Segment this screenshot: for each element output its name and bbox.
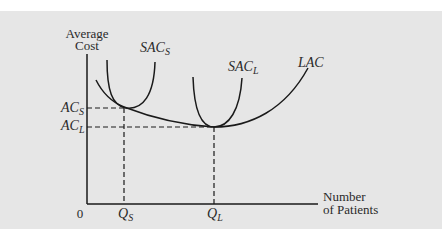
x-axis-label-2: of Patients (323, 202, 378, 217)
cost-curve-diagram: Average Cost Number of Patients 0 SACS S… (0, 0, 446, 241)
ac-l-label: ACL (60, 118, 85, 135)
origin-label: 0 (77, 206, 84, 221)
lac-curve (96, 68, 308, 127)
y-axis-label-2: Cost (75, 38, 99, 53)
ac-s-label: ACS (60, 100, 84, 117)
sac-s-curve (107, 60, 155, 108)
sac-s-label: SACS (140, 40, 170, 57)
lac-label: LAC (297, 55, 324, 70)
q-l-label: QL (207, 206, 223, 223)
q-s-label: QS (118, 206, 133, 223)
sac-l-label: SACL (228, 59, 259, 76)
sac-l-curve (193, 77, 242, 127)
